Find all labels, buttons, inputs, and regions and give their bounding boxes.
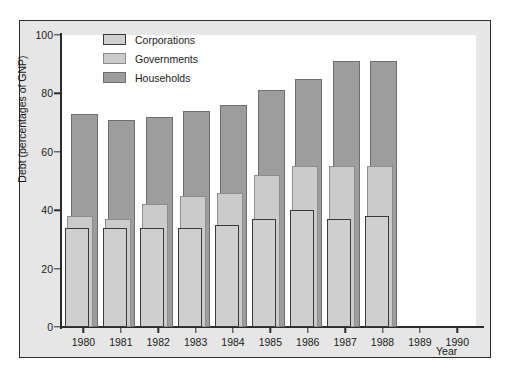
legend-label: Households bbox=[135, 72, 190, 84]
y-tick-mark bbox=[54, 209, 61, 210]
x-tick-mark bbox=[232, 327, 233, 333]
y-tick-mark bbox=[54, 268, 61, 269]
y-tick-label: 40 bbox=[27, 204, 53, 216]
x-tick-mark bbox=[270, 327, 271, 333]
x-tick-label: 1986 bbox=[296, 336, 319, 348]
x-tick-mark bbox=[120, 327, 121, 333]
legend-swatch-households bbox=[103, 72, 126, 83]
y-tick-mark bbox=[54, 93, 61, 94]
legend-item-households: Households bbox=[103, 68, 198, 87]
y-tick-mark bbox=[54, 34, 61, 35]
x-tick-label: 1981 bbox=[109, 336, 132, 348]
bar-corporations-1980 bbox=[65, 228, 89, 327]
x-axis-title: Year bbox=[436, 345, 457, 357]
bar-corporations-1981 bbox=[103, 228, 127, 327]
x-tick-mark bbox=[307, 327, 308, 333]
bar-corporations-1988 bbox=[365, 216, 389, 327]
x-tick-mark bbox=[158, 327, 159, 333]
y-tick-label: 100 bbox=[27, 29, 53, 41]
y-axis-title: Debt (percentages of GNP) bbox=[16, 4, 28, 234]
bar-corporations-1982 bbox=[140, 228, 164, 327]
y-axis-spine bbox=[60, 33, 62, 329]
legend-swatch-governments bbox=[103, 53, 126, 64]
chart-legend: CorporationsGovernmentsHouseholds bbox=[103, 30, 198, 87]
x-tick-mark bbox=[195, 327, 196, 333]
x-tick-label: 1985 bbox=[259, 336, 282, 348]
bar-corporations-1987 bbox=[327, 219, 351, 327]
x-tick-label: 1988 bbox=[371, 336, 394, 348]
bar-corporations-1983 bbox=[178, 228, 202, 327]
x-tick-mark bbox=[457, 327, 458, 333]
x-tick-label: 1980 bbox=[72, 336, 95, 348]
x-tick-mark bbox=[382, 327, 383, 333]
x-tick-mark bbox=[344, 327, 345, 333]
x-tick-mark bbox=[419, 327, 420, 333]
x-tick-label: 1987 bbox=[333, 336, 356, 348]
y-tick-label: 20 bbox=[27, 263, 53, 275]
y-tick-mark bbox=[54, 326, 61, 327]
y-tick-mark bbox=[54, 151, 61, 152]
legend-label: Corporations bbox=[135, 34, 195, 46]
y-tick-label: 0 bbox=[27, 321, 53, 333]
bar-corporations-1986 bbox=[290, 210, 314, 327]
x-tick-label: 1982 bbox=[147, 336, 170, 348]
x-tick-label: 1989 bbox=[408, 336, 431, 348]
bar-corporations-1984 bbox=[215, 225, 239, 327]
legend-swatch-corporations bbox=[103, 34, 126, 45]
x-tick-label: 1984 bbox=[221, 336, 244, 348]
x-tick-mark bbox=[83, 327, 84, 333]
bar-corporations-1985 bbox=[252, 219, 276, 327]
legend-item-corporations: Corporations bbox=[103, 30, 198, 49]
y-tick-label: 80 bbox=[27, 87, 53, 99]
x-tick-label: 1983 bbox=[184, 336, 207, 348]
legend-label: Governments bbox=[135, 53, 198, 65]
legend-item-governments: Governments bbox=[103, 49, 198, 68]
y-tick-label: 60 bbox=[27, 146, 53, 158]
